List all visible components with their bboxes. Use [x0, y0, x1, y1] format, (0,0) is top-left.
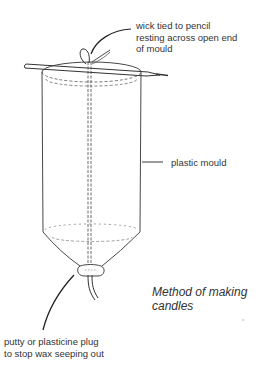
diagram-title: Method of making candles	[152, 286, 247, 313]
wick-label-line-2: resting across open end	[136, 32, 237, 44]
plug-label: putty or plasticine plug to stop wax see…	[4, 336, 104, 359]
wick-label: wick tied to pencil resting across open …	[136, 20, 237, 55]
leader-lines	[43, 29, 163, 330]
wick-label-line-3: of mould	[136, 43, 237, 55]
mould-label-line-1: plastic mould	[171, 157, 226, 169]
wick	[80, 49, 110, 300]
plug-label-line-1: putty or plasticine plug	[4, 336, 104, 348]
plug-label-line-2: to stop wax seeping out	[4, 348, 104, 360]
plastic-mould	[42, 72, 141, 266]
diagram-title-line-1: Method of making	[152, 286, 247, 300]
putty-plug	[78, 265, 104, 277]
pencil	[24, 64, 168, 76]
wick-label-line-1: wick tied to pencil	[136, 20, 237, 32]
diagram-title-line-2: candles	[152, 300, 247, 314]
candle-mould-illustration	[0, 0, 262, 378]
mould-label: plastic mould	[171, 157, 226, 169]
stray-mark	[242, 319, 244, 321]
